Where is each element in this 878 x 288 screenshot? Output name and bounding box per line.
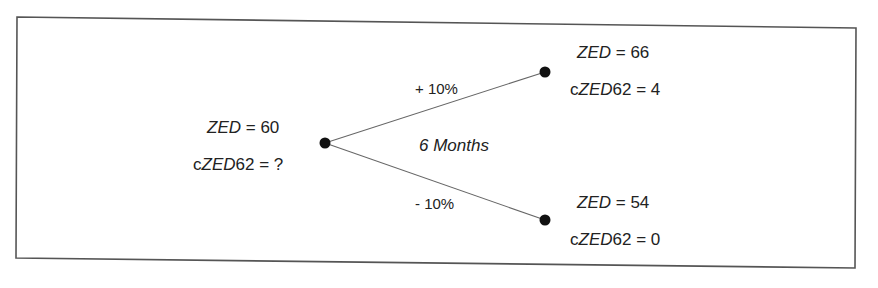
down-option-prefix: c [570,230,579,249]
up-node [540,67,551,78]
root-underlying-label: ZED = 60 [207,118,279,138]
up-option-prefix: c [570,80,579,99]
equals-sign: = [611,43,630,62]
root-var-value: 60 [260,118,279,137]
down-move-label: - 10% [415,195,454,213]
equals-sign: = [631,230,650,249]
root-node [320,138,331,149]
up-var-name: ZED [577,43,611,62]
down-option-name: ZED [579,230,613,249]
down-option-label: cZED62 = 0 [570,230,660,250]
equals-sign: = [611,193,630,212]
down-underlying-label: ZED = 54 [577,193,649,213]
down-var-value: 54 [630,193,649,212]
root-option-value: ? [274,155,283,174]
up-option-label: cZED62 = 4 [570,80,660,100]
up-underlying-label: ZED = 66 [577,43,649,63]
down-var-name: ZED [577,193,611,212]
down-option-suffix: 62 [613,230,632,249]
down-node [540,215,551,226]
root-option-suffix: 62 [236,155,255,174]
equals-sign: = [241,118,260,137]
root-var-name: ZED [207,118,241,137]
binomial-tree-diagram: ZED = 60 cZED62 = ? ZED = 66 cZED62 = 4 … [0,0,878,288]
root-option-prefix: c [193,155,202,174]
up-option-suffix: 62 [613,80,632,99]
root-option-label: cZED62 = ? [193,155,283,175]
equals-sign: = [254,155,273,174]
up-var-value: 66 [630,43,649,62]
down-option-value: 0 [651,230,660,249]
up-option-name: ZED [579,80,613,99]
up-move-label: + 10% [415,80,458,98]
period-label: 6 Months [419,136,489,156]
up-option-value: 4 [651,80,660,99]
equals-sign: = [631,80,650,99]
root-option-name: ZED [202,155,236,174]
